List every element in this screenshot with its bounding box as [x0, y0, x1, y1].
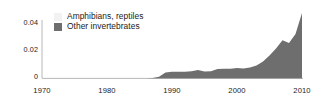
legend-item-other-invertebrates: Other invertebrates [54, 22, 143, 31]
legend-label-other-invertebrates: Other invertebrates [67, 22, 140, 31]
y-tick-label-004: 0.04 [12, 19, 38, 26]
x-tick-label-2010: 2010 [282, 87, 322, 95]
legend-swatch-amphibians-reptiles [54, 13, 62, 21]
chart-legend: Amphibians, reptiles Other invertebrates [54, 12, 143, 31]
legend-swatch-other-invertebrates [54, 23, 62, 31]
x-tick-label-1980: 1980 [87, 87, 127, 95]
y-tick-label-0: 0 [12, 73, 38, 80]
chart-container: 0.04 0.02 0 1970 1980 1990 2000 2010 Amp… [0, 0, 323, 104]
x-tick-label-1970: 1970 [22, 87, 62, 95]
legend-label-amphibians-reptiles: Amphibians, reptiles [67, 12, 143, 21]
x-tick-label-1990: 1990 [152, 87, 192, 95]
y-tick-label-002: 0.02 [12, 46, 38, 53]
legend-item-amphibians-reptiles: Amphibians, reptiles [54, 12, 143, 21]
x-tick-label-2000: 2000 [217, 87, 257, 95]
